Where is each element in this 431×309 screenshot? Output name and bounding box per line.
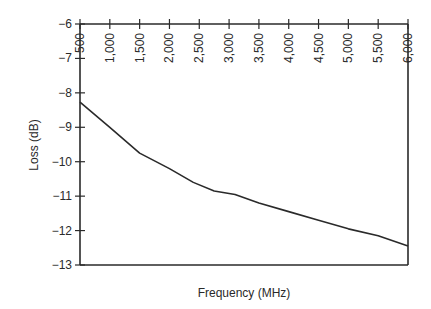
x-tick-label: 1,000 (103, 33, 117, 63)
loss-curve (80, 102, 408, 246)
x-tick-label: 2,500 (192, 33, 206, 63)
y-tick-label: −11 (53, 189, 73, 203)
y-tick-label: −13 (52, 258, 73, 272)
x-axis-title: Frequency (MHz) (198, 286, 291, 300)
x-tick-label: 4,500 (312, 33, 326, 63)
y-tick-label: −7 (58, 51, 72, 65)
x-tick-label: 4,000 (282, 33, 296, 63)
y-tick-label: −6 (58, 17, 72, 31)
x-axis-ticks: 5001,0001,5002,0002,5003,0003,5004,0004,… (73, 19, 415, 63)
x-tick-label: 2,000 (162, 33, 176, 63)
x-tick-label: 3,500 (252, 33, 266, 63)
x-tick-label: 500 (73, 33, 87, 53)
x-tick-label: 5,000 (341, 33, 355, 63)
y-tick-label: −12 (52, 224, 73, 238)
x-tick-label: 1,500 (133, 33, 147, 63)
y-tick-label: −10 (52, 155, 73, 169)
x-tick-label: 3,000 (222, 33, 236, 63)
x-tick-label: 6,000 (401, 33, 415, 63)
y-axis-title: Loss (dB) (27, 119, 41, 170)
x-tick-label: 5,500 (371, 33, 385, 63)
y-tick-label: −8 (58, 86, 72, 100)
loss-vs-frequency-chart: 5001,0001,5002,0002,5003,0003,5004,0004,… (0, 0, 431, 309)
y-tick-label: −9 (58, 120, 72, 134)
